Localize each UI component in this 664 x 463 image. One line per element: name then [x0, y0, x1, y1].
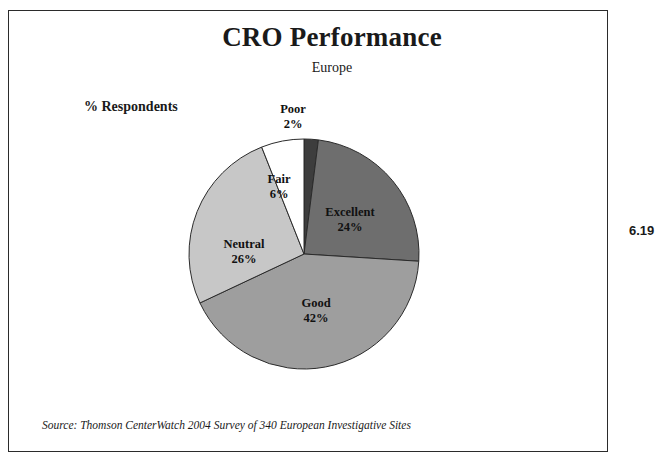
pie-slice-excellent [304, 140, 419, 261]
chart-title: CRO Performance [0, 22, 664, 53]
slice-label-excellent: Excellent 24% [308, 205, 392, 236]
slice-label-good-value: 42% [285, 311, 347, 326]
slice-label-excellent-value: 24% [308, 220, 392, 235]
slice-label-fair-name: Fair [252, 172, 306, 187]
slice-label-fair: Fair 6% [252, 172, 306, 203]
slice-label-neutral-value: 26% [206, 252, 282, 267]
slice-label-fair-value: 6% [252, 187, 306, 202]
source-note: Source: Thomson CenterWatch 2004 Survey … [42, 419, 411, 431]
chart-subtitle: Europe [0, 60, 664, 76]
slice-label-poor: Poor 2% [258, 102, 328, 133]
slice-label-neutral: Neutral 26% [206, 237, 282, 268]
slice-label-neutral-name: Neutral [206, 237, 282, 252]
slice-label-excellent-name: Excellent [308, 205, 392, 220]
slice-label-poor-name: Poor [258, 102, 328, 117]
slice-label-good-name: Good [285, 296, 347, 311]
value-axis-label: % Respondents [84, 99, 178, 115]
figure-number: 6.19 [629, 223, 654, 238]
slice-label-poor-value: 2% [258, 117, 328, 132]
slice-label-good: Good 42% [285, 296, 347, 327]
